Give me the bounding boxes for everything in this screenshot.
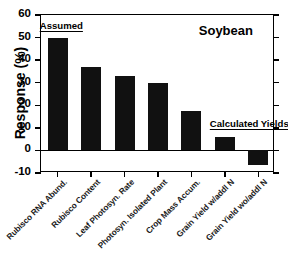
x-axis-label-text-5: Grain Yield w/addl N bbox=[174, 177, 236, 239]
y-tick-0 bbox=[35, 150, 41, 151]
y-tick-right-60 bbox=[273, 14, 279, 15]
bar-0 bbox=[48, 38, 68, 151]
x-axis-label-text-6: Grain Yield wo/addl N bbox=[204, 177, 270, 243]
y-tick-right-50 bbox=[273, 37, 279, 38]
y-tick-60 bbox=[35, 14, 41, 15]
y-tick-label-10: 10 bbox=[18, 121, 31, 133]
y-tick-30 bbox=[35, 82, 41, 83]
y-tick-right-20 bbox=[273, 105, 279, 106]
y-tick-10 bbox=[35, 127, 41, 128]
y-tick-label-0: 0 bbox=[25, 144, 31, 156]
x-axis-label-text-0: Rubisco RNA Abund. bbox=[4, 177, 69, 242]
y-tick-right-30 bbox=[273, 82, 279, 83]
y-tick-20 bbox=[35, 105, 41, 106]
y-tick-label-60: 60 bbox=[18, 8, 31, 20]
y-axis-tick-labels: 6050403020100-10 bbox=[0, 14, 38, 172]
x-axis-label-text-2: Leaf Photosyn. Rate bbox=[74, 177, 136, 239]
bar-1 bbox=[81, 67, 101, 151]
y-tick-label-20: 20 bbox=[18, 99, 31, 111]
y-tick-label-40: 40 bbox=[18, 53, 31, 65]
plot-title-soybean: Soybean bbox=[199, 23, 253, 38]
y-tick-50 bbox=[35, 37, 41, 38]
y-tick-right-0 bbox=[273, 150, 279, 151]
x-axis-category-labels: Rubisco RNA Abund.Rubisco ContentLeaf Ph… bbox=[0, 172, 288, 259]
annotation-assumed: Assumed bbox=[40, 20, 83, 31]
y-tick-label-50: 50 bbox=[18, 31, 31, 43]
y-tick-right-40 bbox=[273, 59, 279, 60]
figure-soybean-response: Response (%) 6050403020100-10 Assumed Ca… bbox=[0, 0, 288, 259]
y-tick-40 bbox=[35, 59, 41, 60]
y-tick-label-30: 30 bbox=[18, 76, 31, 88]
